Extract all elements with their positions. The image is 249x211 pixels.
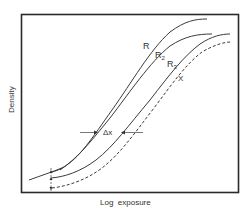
curve-r2 — [60, 34, 212, 170]
x-axis-label: Log exposure — [100, 198, 151, 207]
curve-r3 — [51, 34, 230, 178]
delta-x-label: Δx — [103, 128, 112, 137]
curve-r — [29, 19, 207, 180]
plot-frame — [22, 15, 239, 193]
label-r3: R3 — [167, 59, 178, 70]
curve-x-dashed — [52, 42, 231, 188]
label-r: R — [143, 41, 150, 51]
label-x: X — [178, 74, 184, 83]
vertical-offset-arrow-down — [50, 187, 53, 190]
y-axis-label: Density — [7, 86, 16, 113]
characteristic-curve-diagram: R R2 R3 X Δx Log exposure Density — [0, 0, 249, 211]
